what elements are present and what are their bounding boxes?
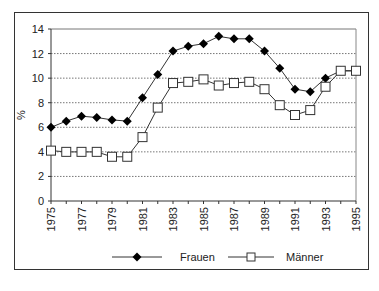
- x-axis-ticks: 1975197719791981198319851987198919911993…: [45, 201, 362, 231]
- square-marker-icon: [275, 101, 284, 110]
- y-tick-label: 12: [32, 48, 44, 60]
- square-marker-icon: [291, 111, 300, 120]
- square-marker-icon: [123, 152, 132, 161]
- x-tick-label: 1983: [167, 207, 179, 231]
- x-tick-label: 1991: [289, 207, 301, 231]
- square-marker-icon: [260, 85, 269, 94]
- data-series: [47, 32, 361, 161]
- diamond-marker-icon: [92, 113, 101, 122]
- diamond-marker-icon: [230, 34, 239, 43]
- y-tick-label: 8: [38, 97, 44, 109]
- y-tick-label: 0: [38, 195, 44, 207]
- legend-item-maenner: Männer: [228, 251, 324, 263]
- square-marker-icon: [306, 106, 315, 115]
- y-axis-ticks: 02468101214: [32, 23, 51, 207]
- y-tick-label: 2: [38, 170, 44, 182]
- x-tick-label: 1995: [350, 207, 362, 231]
- diamond-marker-icon: [245, 34, 254, 43]
- square-marker-icon: [199, 75, 208, 84]
- x-tick-label: 1989: [259, 207, 271, 231]
- square-marker-icon: [245, 77, 254, 86]
- y-axis-label: %: [15, 110, 27, 120]
- x-tick-label: 1993: [320, 207, 332, 231]
- y-tick-label: 14: [32, 23, 44, 35]
- square-marker-icon: [184, 77, 193, 86]
- x-tick-label: 1977: [76, 207, 88, 231]
- diamond-marker-icon: [138, 93, 147, 102]
- square-marker-icon: [336, 66, 345, 75]
- series-männer: [47, 66, 361, 161]
- diamond-marker-icon: [291, 85, 300, 94]
- y-tick-label: 6: [38, 121, 44, 133]
- diamond-marker-icon: [133, 253, 142, 262]
- square-marker-icon: [47, 146, 56, 155]
- diamond-marker-icon: [62, 117, 71, 126]
- legend-label-maenner: Männer: [286, 251, 324, 263]
- square-marker-icon: [62, 147, 71, 156]
- square-marker-icon: [247, 253, 255, 261]
- diamond-marker-icon: [77, 112, 86, 121]
- diamond-marker-icon: [199, 39, 208, 48]
- line-chart: 02468101214 1975197719791981198319851987…: [0, 0, 379, 291]
- y-tick-label: 4: [38, 146, 44, 158]
- diamond-marker-icon: [184, 42, 193, 51]
- square-marker-icon: [77, 147, 86, 156]
- square-marker-icon: [214, 81, 223, 90]
- diamond-marker-icon: [123, 117, 132, 126]
- diamond-marker-icon: [214, 32, 223, 41]
- square-marker-icon: [321, 82, 330, 91]
- square-marker-icon: [138, 133, 147, 142]
- x-tick-label: 1985: [198, 207, 210, 231]
- diamond-marker-icon: [153, 70, 162, 79]
- y-tick-label: 10: [32, 72, 44, 84]
- legend-item-frauen: Frauen: [112, 251, 215, 263]
- diamond-marker-icon: [47, 123, 56, 132]
- square-marker-icon: [230, 79, 239, 88]
- square-marker-icon: [92, 147, 101, 156]
- square-marker-icon: [108, 152, 117, 161]
- x-tick-label: 1975: [45, 207, 57, 231]
- x-tick-label: 1981: [137, 207, 149, 231]
- square-marker-icon: [352, 66, 361, 75]
- square-marker-icon: [153, 103, 162, 112]
- diamond-marker-icon: [169, 47, 178, 56]
- x-tick-label: 1987: [228, 207, 240, 231]
- legend: Frauen Männer: [112, 251, 324, 263]
- diamond-marker-icon: [108, 115, 117, 124]
- legend-label-frauen: Frauen: [180, 251, 215, 263]
- square-marker-icon: [169, 79, 178, 88]
- x-tick-label: 1979: [106, 207, 118, 231]
